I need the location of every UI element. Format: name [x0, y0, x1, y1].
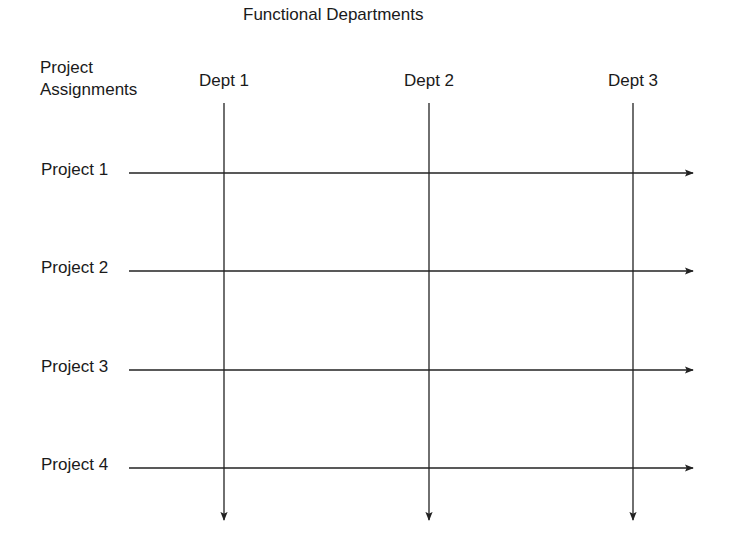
matrix-lines	[0, 0, 731, 539]
